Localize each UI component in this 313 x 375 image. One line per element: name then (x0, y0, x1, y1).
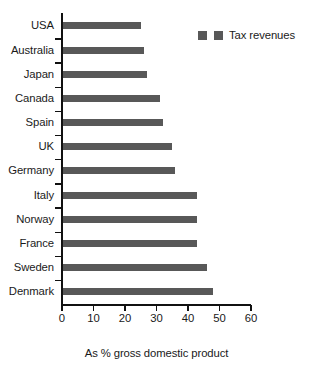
bar (62, 240, 197, 247)
bar-row (62, 62, 251, 86)
y-axis-label: USA (31, 20, 54, 31)
bar (62, 167, 175, 174)
bar-row (62, 183, 251, 207)
x-axis-tick (250, 305, 251, 311)
bar (62, 192, 197, 199)
y-axis-label: Canada (15, 93, 54, 104)
bar (62, 119, 163, 126)
bar-row (62, 280, 251, 304)
y-axis-label: Spain (26, 117, 54, 128)
bar (62, 264, 207, 271)
x-axis-tick (219, 305, 220, 311)
x-axis-tick-label: 10 (79, 313, 109, 324)
y-axis-tick (55, 159, 61, 160)
y-axis-tick (55, 256, 61, 257)
legend-label: Tax revenues (229, 30, 295, 41)
y-axis-label: Denmark (9, 286, 54, 297)
x-axis-tick-label: 50 (205, 313, 235, 324)
bar (62, 22, 141, 29)
y-axis-tick (55, 207, 61, 208)
x-axis-tick-label: 40 (173, 313, 203, 324)
bar (62, 216, 197, 223)
y-axis-label: UK (39, 141, 55, 152)
bar-row (62, 256, 251, 280)
legend-swatch-icon (198, 31, 207, 40)
x-axis-tick-label: 0 (47, 313, 77, 324)
bar-chart: USAAustraliaJapanCanadaSpainUKGermanyIta… (0, 0, 313, 375)
bar-row (62, 207, 251, 231)
y-axis-tick (55, 87, 61, 88)
bar-row (62, 38, 251, 62)
y-axis-tick (55, 232, 61, 233)
x-axis-tick (156, 305, 157, 311)
x-axis-tick (61, 305, 62, 311)
y-axis-label: Norway (16, 214, 54, 225)
bar-row (62, 87, 251, 111)
x-axis-tick-label: 60 (236, 313, 266, 324)
y-axis-label: Italy (34, 190, 54, 201)
bar-row (62, 111, 251, 135)
bar (62, 71, 147, 78)
x-axis-tick-label: 20 (110, 313, 140, 324)
y-axis-tick (55, 111, 61, 112)
bar (62, 143, 172, 150)
y-axis-tick (55, 135, 61, 136)
x-axis-title: As % gross domestic product (0, 347, 313, 359)
bar-row (62, 159, 251, 183)
y-axis-tick (55, 280, 61, 281)
y-axis-label: Germany (8, 165, 54, 176)
x-axis-tick (124, 305, 125, 311)
bar-row (62, 135, 251, 159)
plot-area (62, 14, 251, 304)
bar (62, 288, 213, 295)
bar (62, 47, 144, 54)
y-axis-tick (55, 183, 61, 184)
y-axis-label: Japan (24, 69, 54, 80)
y-axis-label: France (19, 238, 54, 249)
x-axis-tick-label: 30 (142, 313, 172, 324)
y-axis-label: Sweden (14, 262, 54, 273)
y-axis-tick (55, 38, 61, 39)
y-axis-line (61, 13, 63, 305)
x-axis-tick (93, 305, 94, 311)
y-axis-label: Australia (11, 45, 54, 56)
bar-row (62, 232, 251, 256)
x-axis-tick (187, 305, 188, 311)
legend: Tax revenues (198, 30, 295, 41)
legend-swatch-secondary-icon (214, 31, 223, 40)
bar (62, 95, 160, 102)
y-axis-tick (55, 62, 61, 63)
